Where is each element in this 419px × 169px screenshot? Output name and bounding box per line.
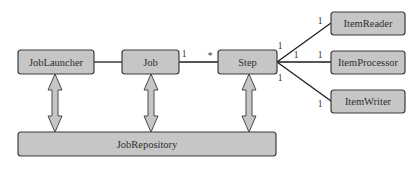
- node-label: ItemReader: [344, 18, 393, 29]
- mult-job-to-step-source: 1: [182, 49, 187, 59]
- mult-step-to-processor-source: 1: [294, 50, 299, 60]
- mult-step-to-writer-source: 1: [278, 73, 283, 83]
- double-arrow-step-jobrepository: [242, 74, 256, 132]
- edge-step-itemwriter: [277, 62, 331, 101]
- double-arrow-job-jobrepository: [144, 74, 158, 132]
- node-label: JobLauncher: [29, 57, 84, 68]
- node-joblauncher: JobLauncher: [18, 50, 94, 74]
- node-label: ItemWriter: [345, 96, 392, 107]
- double-arrow-icon: [144, 74, 158, 132]
- node-label: ItemProcessor: [338, 57, 399, 68]
- node-itemprocessor: ItemProcessor: [331, 51, 405, 74]
- spring-batch-architecture-diagram: 1 * 1 1 1 1 1 1 JobLauncher Job Step Ite…: [0, 0, 419, 169]
- mult-job-to-step-target: *: [208, 51, 213, 61]
- mult-step-to-reader-target: 1: [318, 16, 323, 26]
- node-label: Step: [238, 57, 257, 68]
- double-arrow-icon: [242, 74, 256, 132]
- node-label: Job: [143, 57, 158, 68]
- node-itemwriter: ItemWriter: [331, 90, 405, 113]
- mult-step-to-reader-source: 1: [278, 41, 283, 51]
- double-arrow-joblauncher-jobrepository: [48, 74, 62, 132]
- edge-step-itemreader: [277, 23, 331, 62]
- mult-step-to-processor-target: 1: [318, 50, 323, 60]
- node-label: JobRepository: [117, 139, 178, 150]
- node-step: Step: [218, 50, 277, 74]
- node-jobrepository: JobRepository: [18, 132, 276, 156]
- double-arrow-icon: [48, 74, 62, 132]
- node-job: Job: [122, 50, 179, 74]
- mult-step-to-writer-target: 1: [318, 99, 323, 109]
- node-itemreader: ItemReader: [331, 12, 405, 35]
